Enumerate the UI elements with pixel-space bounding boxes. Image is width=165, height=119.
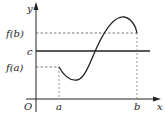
y-axis-arrow-icon: [34, 2, 39, 10]
fb-label: f(b): [5, 28, 24, 39]
c-label: c: [27, 46, 33, 57]
x-axis-label: x: [157, 101, 163, 112]
function-curve: [59, 17, 137, 80]
a-label: a: [56, 101, 62, 112]
function-graph: y x O a b f(b) c f(a): [0, 0, 165, 119]
fa-label: f(a): [5, 62, 24, 73]
y-axis-label: y: [26, 3, 33, 14]
origin-label: O: [24, 101, 32, 112]
b-label: b: [134, 101, 140, 112]
